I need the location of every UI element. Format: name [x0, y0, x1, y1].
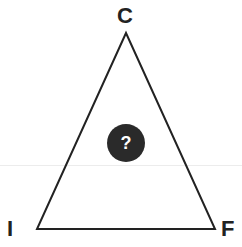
vertex-label-f: F — [221, 218, 234, 240]
question-mark-label: ? — [121, 133, 132, 154]
vertex-label-i: I — [7, 218, 13, 240]
question-mark-icon: ? — [107, 124, 145, 162]
vertex-label-c: C — [117, 5, 133, 27]
triangle-diagram: C I F ? — [0, 0, 242, 247]
